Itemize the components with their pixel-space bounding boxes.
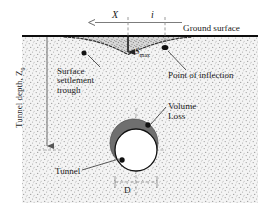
smax-subscript: max <box>140 52 150 58</box>
point-of-inflection-label: Point of inflection <box>168 71 234 80</box>
tunnel-bore <box>115 129 157 171</box>
settlement-trough-label: Surface settlement trough <box>57 67 94 95</box>
x-distance-label: X <box>112 10 118 20</box>
volume-loss-label: Volume Loss <box>168 102 196 121</box>
tunnel-depth-label: Tunnel depth, Z0 <box>15 58 26 138</box>
tunnel-depth-subscript: 0 <box>19 67 26 70</box>
inflection-distance-label: i <box>151 10 154 20</box>
volume-loss-dot <box>145 122 150 127</box>
ground-surface-label: Ground surface <box>183 24 240 34</box>
tunnel-dot <box>119 157 124 162</box>
max-settlement-label: Smax <box>135 47 150 58</box>
tunnel-label: Tunnel <box>55 167 80 176</box>
diameter-label: D <box>124 186 131 196</box>
tunnel-settlement-diagram: Ground surface X i Smax Tunnel depth, Z0… <box>0 0 271 210</box>
inflection-point-dot <box>162 45 169 50</box>
tunnel-depth-text: Tunnel depth, Z <box>14 70 24 127</box>
trough-left-point <box>82 51 87 56</box>
